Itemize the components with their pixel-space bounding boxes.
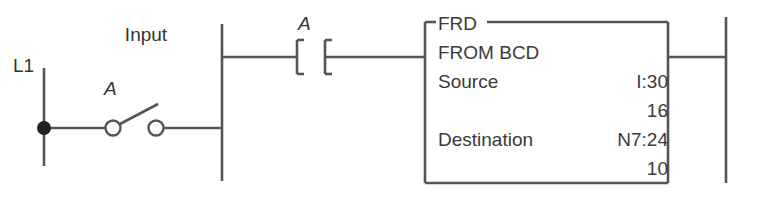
switch-designation-label: A [104, 79, 117, 98]
l1-junction-dot [37, 121, 51, 135]
switch-terminal-right [149, 121, 164, 136]
block-mnemonic-label: FRD [436, 14, 482, 33]
l1-supply-label: L1 [13, 56, 34, 75]
block-row-source-value: I:30 [636, 72, 668, 91]
block-row-destination-subvalue: 10 [647, 159, 668, 178]
block-row-destination-label: Destination [438, 130, 533, 149]
contact-designation-label: A [298, 14, 311, 33]
block-row-destination-value: N7:24 [617, 130, 668, 149]
input-device-label: Input [100, 25, 192, 44]
block-row-source-subvalue: 16 [647, 101, 668, 120]
block-row-source-label: Source [438, 72, 498, 91]
block-name-label: FROM BCD [438, 43, 539, 62]
switch-terminal-left [106, 121, 121, 136]
ladder-diagram-canvas: Input L1 A A FRD FROM BCD Source I:30 16… [0, 0, 765, 198]
